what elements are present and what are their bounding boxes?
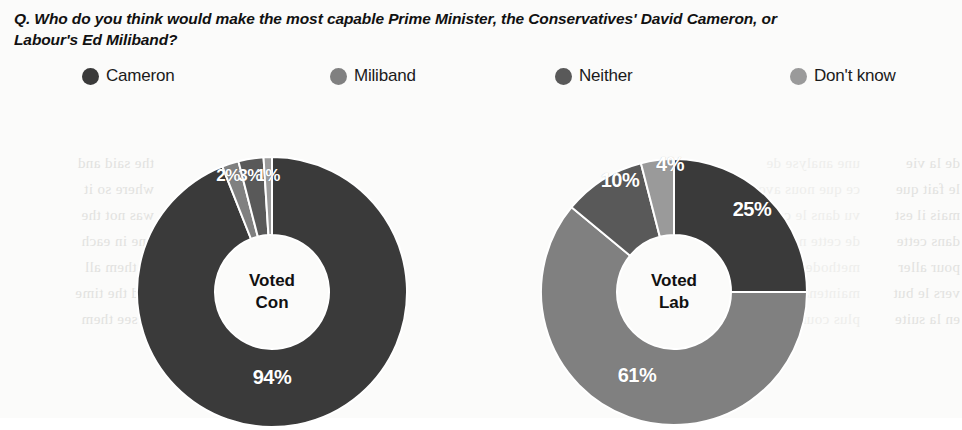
slice-value-label-cameron: 94% [253, 366, 292, 389]
slice-value-label-cameron: 25% [733, 198, 772, 221]
slice-value-label-don-t-know: 1% [256, 166, 280, 186]
slice-value-label-miliband: 2% [216, 166, 240, 186]
donut-center-label: Voted Con [249, 270, 295, 314]
donut-center-label: Voted Lab [651, 270, 697, 314]
slice-value-label-miliband: 61% [618, 364, 657, 387]
slice-value-label-don-t-know: 4% [656, 153, 684, 176]
slice-value-label-neither: 10% [601, 169, 640, 192]
donut-chart-voted-con: Voted Con [134, 154, 410, 430]
